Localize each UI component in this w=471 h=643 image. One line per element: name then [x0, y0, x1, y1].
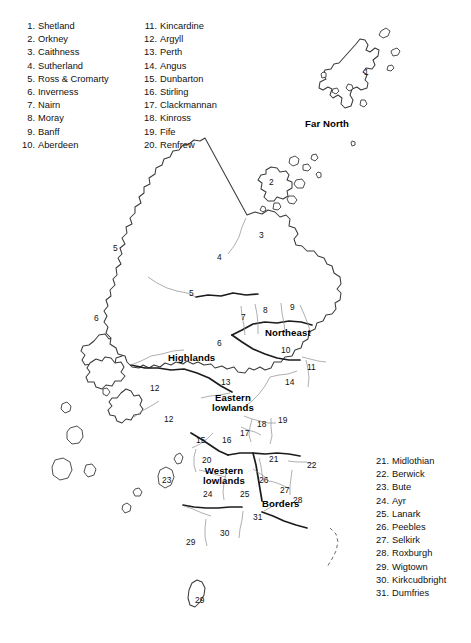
region-name-label: Far North	[305, 118, 349, 129]
county-number-marker: 8	[263, 305, 268, 315]
county-number-marker: 18	[257, 419, 266, 429]
region-name-label: Easternlowlands	[212, 393, 254, 414]
legend-label: Inverness	[38, 86, 78, 99]
county-number-marker: 13	[221, 377, 230, 387]
legend-number: 13.	[140, 46, 157, 59]
county-number-marker: 11	[307, 362, 316, 372]
legend-number: 18.	[140, 112, 157, 125]
legend-item: 31.Dumfries	[372, 587, 446, 600]
legend-label: Dumfries	[392, 587, 429, 600]
county-number-marker: 29	[195, 595, 204, 605]
legend-number: 3.	[18, 46, 35, 59]
legend-label: Lanark	[392, 508, 420, 521]
legend-number: 8.	[18, 112, 35, 125]
county-number-marker: 25	[240, 489, 249, 499]
legend-number: 14.	[140, 60, 157, 73]
county-number-marker: 30	[220, 528, 229, 538]
legend-item: 26.Peebles	[372, 521, 446, 534]
legend-label: Midlothian	[392, 455, 434, 468]
legend-number: 28.	[372, 547, 389, 560]
legend-column-2: 11.Kincardine 12.Argyll 13.Perth 14.Angu…	[140, 20, 217, 152]
legend-label: Caithness	[38, 46, 79, 59]
legend-item: 16.Stirling	[140, 86, 217, 99]
legend-number: 21.	[372, 455, 389, 468]
legend-item: 25.Lanark	[372, 508, 446, 521]
legend-number: 20.	[140, 139, 157, 152]
legend-number: 22.	[372, 468, 389, 481]
legend-item: 18.Kinross	[140, 112, 217, 125]
county-number-marker: 9	[290, 302, 295, 312]
legend-number: 27.	[372, 534, 389, 547]
legend-number: 17.	[140, 99, 157, 112]
legend-label: Kinross	[160, 112, 191, 125]
legend-item: 14.Angus	[140, 60, 217, 73]
legend-number: 30.	[372, 574, 389, 587]
legend-label: Perth	[160, 46, 182, 59]
legend-label: Ross & Cromarty	[38, 73, 109, 86]
legend-number: 2.	[18, 33, 35, 46]
legend-number: 7.	[18, 99, 35, 112]
county-number-marker: 7	[241, 312, 246, 322]
legend-label: Peebles	[392, 521, 426, 534]
scotland-counties-map-figure: .coast { fill:#ffffff; stroke:#3a3a3a; s…	[0, 0, 471, 643]
legend-item: 29.Wigtown	[372, 561, 446, 574]
county-number-marker: 29	[186, 537, 195, 547]
legend-number: 15.	[140, 73, 157, 86]
legend-item: 5.Ross & Cromarty	[18, 73, 109, 86]
county-number-marker: 31	[253, 512, 262, 522]
legend-label: Fife	[160, 126, 176, 139]
legend-item: 15.Dunbarton	[140, 73, 217, 86]
county-number-marker: 16	[222, 435, 231, 445]
legend-label: Kirkcudbright	[392, 574, 446, 587]
county-number-marker: 5	[113, 243, 118, 253]
legend-label: Shetland	[38, 20, 75, 33]
county-number-marker: 2	[269, 177, 274, 187]
county-number-marker: 19	[278, 415, 287, 425]
legend-label: Argyll	[160, 33, 183, 46]
legend-number: 10.	[18, 139, 35, 152]
legend-label: Banff	[38, 126, 60, 139]
legend-number: 25.	[372, 508, 389, 521]
legend-item: 23.Bute	[372, 481, 446, 494]
legend-item: 9.Banff	[18, 126, 109, 139]
legend-item: 24.Ayr	[372, 495, 446, 508]
legend-number: 4.	[18, 60, 35, 73]
legend-label: Stirling	[160, 86, 188, 99]
legend-item: 1.Shetland	[18, 20, 109, 33]
legend-item: 20.Renfrew	[140, 139, 217, 152]
legend-number: 11.	[140, 20, 157, 33]
county-number-marker: 27	[280, 485, 289, 495]
region-name-label: Northeast	[265, 327, 311, 338]
county-number-marker: 23	[162, 475, 171, 485]
legend-label: Ayr	[392, 495, 406, 508]
region-name-label: Borders	[262, 498, 300, 509]
legend-label: Angus	[160, 60, 186, 73]
legend-label: Dunbarton	[160, 73, 203, 86]
england-border-dashed	[327, 528, 338, 567]
legend-item: 19.Fife	[140, 126, 217, 139]
legend-item: 6.Inverness	[18, 86, 109, 99]
legend-number: 9.	[18, 126, 35, 139]
legend-item: 4.Sutherland	[18, 60, 109, 73]
inner-hebrides	[52, 357, 142, 513]
legend-item: 10.Aberdeen	[18, 139, 109, 152]
legend-item: 30.Kirkcudbright	[372, 574, 446, 587]
legend-item: 17.Clackmannan	[140, 99, 217, 112]
region-name-label: Highlands	[168, 352, 215, 363]
county-number-marker: 1	[364, 67, 369, 77]
legend-number: 24.	[372, 495, 389, 508]
legend-number: 16.	[140, 86, 157, 99]
legend-item: 11.Kincardine	[140, 20, 217, 33]
county-number-marker: 6	[217, 338, 222, 348]
county-number-marker: 4	[217, 252, 222, 262]
county-number-marker: 12	[164, 414, 173, 424]
legend-number: 6.	[18, 86, 35, 99]
legend-number: 26.	[372, 521, 389, 534]
legend-label: Moray	[38, 112, 64, 125]
legend-item: 3.Caithness	[18, 46, 109, 59]
county-number-marker: 24	[203, 489, 212, 499]
legend-label: Selkirk	[392, 534, 420, 547]
county-number-marker: 21	[269, 454, 278, 464]
county-number-marker: 20	[202, 455, 211, 465]
county-number-marker: 5	[189, 288, 194, 298]
